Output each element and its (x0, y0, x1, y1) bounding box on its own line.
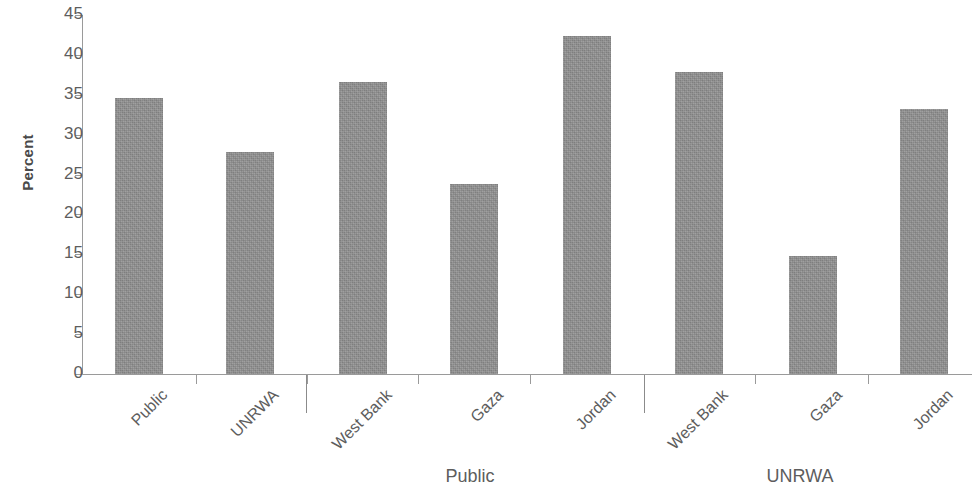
group-separator (306, 375, 307, 413)
y-axis-tick-label: 20 (45, 203, 83, 223)
y-axis-tick-label: 40 (45, 44, 83, 64)
x-axis-tick-mark (196, 375, 197, 384)
bar (450, 184, 498, 374)
x-axis-tick-mark (530, 375, 531, 384)
x-axis-tick-label: UNRWA (228, 386, 283, 441)
x-axis-tick-label: Gaza (806, 386, 846, 426)
y-axis-tick-label: 30 (45, 124, 83, 144)
x-axis-line (82, 374, 972, 375)
y-axis-tick-label: 35 (45, 84, 83, 104)
y-axis-tick-label: 10 (45, 283, 83, 303)
y-axis-tick-label: 0 (45, 363, 83, 383)
group-label: UNRWA (767, 466, 834, 487)
bar (339, 82, 387, 374)
x-axis-tick-label: Gaza (467, 386, 507, 426)
bar (900, 109, 948, 374)
x-axis-tick-mark (755, 375, 756, 384)
x-axis-tick-label: Jordan (572, 386, 619, 433)
y-axis-tick-label: 25 (45, 164, 83, 184)
x-axis-tick-mark (418, 375, 419, 384)
y-axis-tick-label: 45 (45, 4, 83, 24)
bar (563, 36, 611, 374)
bar (675, 72, 723, 374)
x-axis-tick-mark (868, 375, 869, 384)
y-axis-tick-label: 15 (45, 243, 83, 263)
x-axis-tick-mark (307, 375, 308, 384)
x-axis-tick-label: West Bank (664, 386, 731, 453)
bar (226, 152, 274, 374)
bar-chart-figure: Percent 051015202530354045 PublicUNRWAWe… (0, 0, 977, 495)
y-axis-tick-label: 5 (45, 323, 83, 343)
bar (789, 256, 837, 374)
bar (115, 98, 163, 374)
x-axis-tick-label: Public (128, 386, 172, 430)
group-separator (644, 375, 645, 413)
group-label: Public (445, 466, 494, 487)
x-axis-tick-label: Jordan (909, 386, 956, 433)
y-axis-title: Percent (19, 108, 36, 218)
x-axis-tick-label: West Bank (328, 386, 395, 453)
y-axis-line (82, 15, 83, 374)
